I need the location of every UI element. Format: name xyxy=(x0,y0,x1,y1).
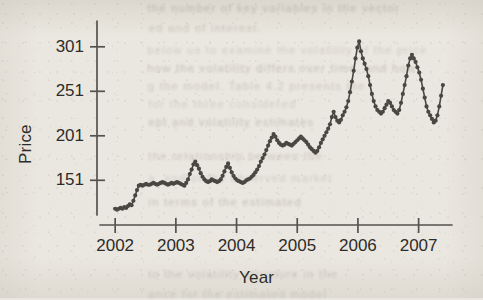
x-axis-title: Year xyxy=(239,268,274,288)
data-point-marker xyxy=(426,110,430,114)
data-point-marker xyxy=(129,203,133,207)
data-point-marker xyxy=(131,199,135,203)
data-point-marker xyxy=(266,143,270,147)
data-point-marker xyxy=(273,135,277,139)
data-point-marker xyxy=(222,169,226,173)
data-point-marker xyxy=(257,164,261,168)
data-point-marker xyxy=(439,94,443,98)
data-point-marker xyxy=(355,46,359,50)
data-point-marker xyxy=(341,113,345,117)
data-point-marker xyxy=(424,104,428,108)
x-tick-label: 2003 xyxy=(151,236,201,256)
data-point-marker xyxy=(421,87,425,91)
data-point-marker xyxy=(319,141,323,145)
data-point-marker xyxy=(423,95,427,99)
data-point-marker xyxy=(184,181,188,185)
data-point-marker xyxy=(261,156,265,160)
y-tick-label: 301 xyxy=(40,37,84,57)
data-point-marker xyxy=(219,177,223,181)
data-point-marker xyxy=(435,113,439,117)
data-point-marker xyxy=(417,71,421,75)
data-point-marker xyxy=(255,168,259,172)
data-point-marker xyxy=(330,115,334,119)
data-point-marker xyxy=(224,165,228,169)
data-point-marker xyxy=(197,167,201,171)
data-point-marker xyxy=(317,145,321,149)
data-point-marker xyxy=(264,148,268,152)
data-point-marker xyxy=(399,101,403,105)
data-point-marker xyxy=(353,56,357,60)
data-point-marker xyxy=(193,160,197,164)
y-tick-label: 251 xyxy=(40,81,84,101)
data-point-marker xyxy=(188,172,192,176)
data-point-marker xyxy=(262,152,266,156)
data-point-marker xyxy=(441,83,445,87)
data-point-marker xyxy=(384,103,388,107)
data-point-marker xyxy=(230,170,234,174)
x-tick-label: 2006 xyxy=(333,236,383,256)
data-point-marker xyxy=(350,79,354,83)
data-point-marker xyxy=(373,104,377,108)
data-point-marker xyxy=(195,163,199,167)
data-point-marker xyxy=(395,111,399,115)
y-tick-label: 201 xyxy=(40,126,84,146)
data-point-marker xyxy=(332,110,336,114)
data-point-marker xyxy=(390,104,394,108)
data-point-marker xyxy=(361,56,365,60)
data-point-marker xyxy=(342,110,346,114)
y-axis-title: Price xyxy=(16,124,36,164)
data-point-marker xyxy=(135,188,139,192)
data-point-marker xyxy=(406,63,410,67)
data-point-marker xyxy=(328,122,332,126)
data-point-marker xyxy=(190,168,194,172)
data-point-marker xyxy=(352,69,356,73)
data-point-marker xyxy=(370,92,374,96)
data-point-marker xyxy=(339,118,343,122)
data-point-marker xyxy=(388,101,392,105)
x-tick-label: 2007 xyxy=(394,236,444,256)
data-point-marker xyxy=(412,56,416,60)
data-point-marker xyxy=(404,74,408,78)
data-point-marker xyxy=(401,92,405,96)
price-series xyxy=(113,39,445,211)
data-point-marker xyxy=(199,171,203,175)
data-point-marker xyxy=(324,130,328,134)
data-point-marker xyxy=(357,39,361,43)
data-point-marker xyxy=(366,74,370,78)
data-point-marker xyxy=(413,60,417,64)
data-point-marker xyxy=(226,161,230,165)
x-tick-label: 2002 xyxy=(90,236,140,256)
data-point-marker xyxy=(322,134,326,138)
data-point-marker xyxy=(344,105,348,109)
data-point-marker xyxy=(315,149,319,153)
data-point-marker xyxy=(363,62,367,66)
data-point-marker xyxy=(381,110,385,114)
data-point-marker xyxy=(428,113,432,117)
data-point-marker xyxy=(333,115,337,119)
chart-axes xyxy=(90,21,452,233)
data-point-marker xyxy=(430,117,434,121)
data-point-marker xyxy=(133,193,137,197)
data-point-marker xyxy=(408,56,412,60)
data-point-marker xyxy=(368,83,372,87)
data-point-marker xyxy=(364,67,368,71)
data-point-marker xyxy=(397,108,401,112)
data-point-marker xyxy=(415,65,419,69)
data-point-marker xyxy=(228,166,232,170)
data-point-marker xyxy=(186,177,190,181)
data-point-marker xyxy=(403,83,407,87)
data-point-marker xyxy=(372,99,376,103)
data-point-marker xyxy=(321,137,325,141)
data-point-marker xyxy=(270,135,274,139)
data-point-marker xyxy=(410,53,414,57)
data-point-marker xyxy=(419,78,423,82)
price-point-markers xyxy=(113,39,445,211)
data-point-marker xyxy=(359,49,363,53)
data-point-marker xyxy=(383,106,387,110)
data-point-marker xyxy=(268,139,272,143)
data-point-marker xyxy=(346,99,350,103)
x-tick-label: 2005 xyxy=(272,236,322,256)
x-tick-label: 2004 xyxy=(212,236,262,256)
y-tick-label: 151 xyxy=(40,170,84,190)
data-point-marker xyxy=(434,119,438,123)
